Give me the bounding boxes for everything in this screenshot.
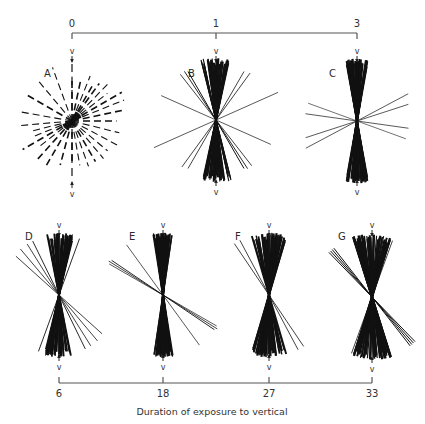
panel-a: Avv [19,47,124,199]
panel-label: G [338,231,346,242]
vertical-marker-top: v [57,221,62,230]
orientation-lines [109,233,218,357]
bottom-axis-tick-label: 33 [366,388,379,399]
vertical-marker-bottom: v [214,188,219,197]
vertical-marker-top: v [370,221,375,230]
orientation-lines [306,59,409,183]
panel-b: Bvv [154,47,278,197]
orientation-diagram: 0136182733 AvvBvvCvvDvvEvvFvvGvv Duratio… [0,0,425,424]
vertical-marker-top: v [214,47,219,56]
panel-c: Cvv [306,47,409,197]
panel-label: E [129,231,135,242]
vertical-marker-bottom: v [57,363,62,372]
top-axis-tick-label: 0 [69,18,75,29]
panel-e: Evv [109,221,218,372]
vertical-marker-bottom: v [267,363,272,372]
vertical-marker-bottom: v [161,363,166,372]
dashed-orientation-line [20,112,72,121]
orientation-lines [329,235,415,360]
orientation-lines [234,233,303,357]
vertical-marker-top: v [70,47,75,56]
orientation-line [351,241,392,354]
dashed-orientation-line [52,67,72,121]
orientation-lines [154,58,278,181]
orientation-lines [16,233,102,356]
vertical-marker-bottom: v [370,365,375,374]
dashed-orientation-line [72,121,103,159]
arrowhead-icon [70,181,74,185]
panel-label: C [329,68,336,79]
panel-d: Dvv [16,221,102,372]
panel-label: A [44,68,51,79]
orientation-lines [19,64,124,180]
vertical-marker-top: v [267,221,272,230]
orientation-panels: AvvBvvCvvDvvEvvFvvGvv [16,47,415,374]
arrowhead-icon [70,59,74,63]
bottom-axis-tick-label: 27 [263,388,276,399]
dashed-orientation-line [72,121,119,133]
panel-label: D [25,231,33,242]
dashed-orientation-line [72,121,80,165]
dashed-orientation-line [39,82,72,121]
bottom-axis-tick-label: 6 [56,388,62,399]
vertical-marker-bottom: v [70,190,75,199]
axis-caption: Duration of exposure to vertical [136,406,287,417]
panel-f: Fvv [234,221,303,372]
top-axis-tick-label: 1 [213,18,219,29]
vertical-marker-top: v [161,221,166,230]
panel-g: Gvv [329,221,415,374]
top-axis-tick-label: 3 [354,18,360,29]
vertical-marker-bottom: v [355,188,360,197]
dashed-orientation-line [72,121,89,166]
vertical-marker-top: v [355,47,360,56]
bottom-axis-tick-label: 18 [157,388,170,399]
